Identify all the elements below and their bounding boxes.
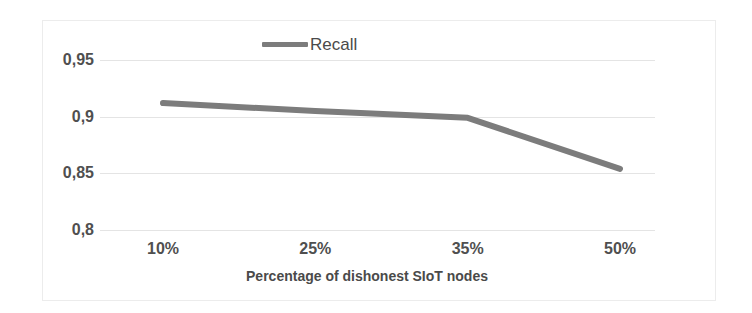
gridline-0 [100,230,655,231]
y-tick-label-1: 0,9 [36,108,94,126]
x-axis-title: Percentage of dishonest SIoT nodes [0,268,752,284]
chart-screenshot: Recall 0,95 0,9 0,85 0,8 10% 25% 35% 50%… [0,0,752,313]
series-recall-svg [100,60,655,230]
x-tick-label-3: 50% [604,240,636,258]
y-axis-labels: 0,95 0,9 0,85 0,8 [36,60,94,230]
x-axis-title-text: Percentage of dishonest SIoT nodes [246,268,488,284]
y-tick-label-0: 0,95 [36,51,94,69]
y-tick-label-2: 0,85 [36,164,94,182]
series-recall-line [163,103,620,169]
y-tick-label-3: 0,8 [36,221,94,239]
plot-area [100,60,655,230]
x-tick-label-2: 35% [452,240,484,258]
x-tick-label-1: 25% [299,240,331,258]
chart-legend: Recall [262,33,357,55]
x-tick-label-0: 10% [147,240,179,258]
legend-item-recall: Recall [310,36,357,53]
x-axis-labels: 10% 25% 35% 50% [100,240,655,264]
legend-line-swatch-icon [262,42,308,47]
